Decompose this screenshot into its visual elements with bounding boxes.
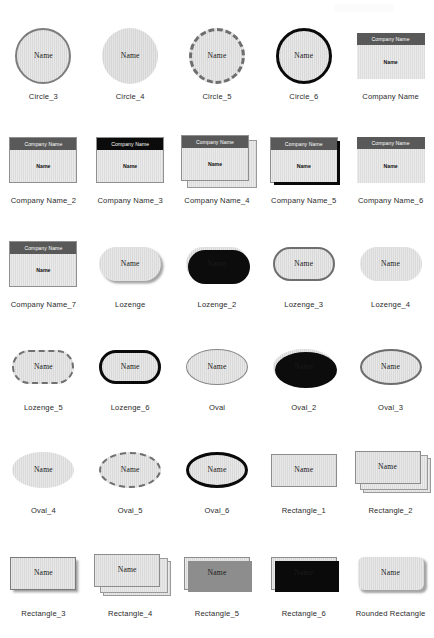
rectangle-grey-shadow-shape[interactable]: Name [184, 557, 250, 590]
shape-preview[interactable]: Name [174, 230, 261, 298]
shape-preview[interactable]: Name [347, 333, 434, 401]
shape-cell-lozenge-5[interactable]: Name Lozenge_5 [0, 333, 87, 412]
oval-shadow-shape[interactable]: Name [273, 349, 335, 385]
rectangle-black-shadow-shape[interactable]: Name [271, 557, 337, 590]
oval-plain-shape[interactable]: Name [12, 452, 74, 488]
shape-preview[interactable]: Company Name Name [0, 126, 87, 194]
shape-preview[interactable]: Name [0, 436, 87, 504]
shape-cell-lozenge[interactable]: Name Lozenge [87, 230, 174, 309]
shape-cell-oval-2[interactable]: Name Oval_2 [260, 333, 347, 412]
circle-shape[interactable]: Name [102, 28, 158, 84]
shape-preview[interactable]: Company Name Name [347, 126, 434, 194]
shape-preview[interactable]: Name [347, 539, 434, 607]
shape-name-text: Name [36, 163, 50, 169]
shape-cell-company-name-3[interactable]: Company Name Name Company Name_3 [87, 126, 174, 205]
shape-preview[interactable]: Name [260, 333, 347, 401]
rectangle-stacked-shape[interactable]: Name [94, 554, 160, 587]
shape-name-text: Name [381, 260, 400, 268]
company-card-stacked-shape[interactable]: Company Name Name [181, 135, 249, 181]
shape-preview[interactable]: Name [260, 230, 347, 298]
shape-cell-lozenge-3[interactable]: Name Lozenge_3 [260, 230, 347, 309]
shape-cell-circle-5[interactable]: Name Circle_5 [174, 22, 261, 101]
company-card-shadow-shape[interactable]: Company Name Name [270, 137, 338, 183]
shape-preview[interactable]: Name [174, 22, 261, 90]
shape-cell-circle-4[interactable]: Name Circle_4 [87, 22, 174, 101]
shape-label: Circle_4 [116, 92, 145, 101]
shape-label: Company Name_6 [358, 196, 423, 205]
shape-preview[interactable]: Name [260, 539, 347, 607]
shape-cell-circle-6[interactable]: Name Circle_6 [260, 22, 347, 101]
oval-bold-shape[interactable]: Name [186, 452, 248, 488]
rectangle-shadow-shape[interactable]: Name [10, 557, 76, 590]
company-card-shape[interactable]: Company Name Name [9, 241, 77, 287]
shape-preview[interactable]: Name [87, 333, 174, 401]
company-card-dark-header-shape[interactable]: Company Name Name [96, 137, 164, 183]
shape-preview[interactable]: Name [87, 539, 174, 607]
shape-cell-company-name-4[interactable]: Company Name Name Company Name_4 [174, 126, 261, 205]
shape-preview[interactable]: Company Name Name [0, 230, 87, 298]
shape-cell-lozenge-4[interactable]: Name Lozenge_4 [347, 230, 434, 309]
oval-dashed-shape[interactable]: Name [99, 452, 161, 488]
shape-cell-rectangle-6[interactable]: Name Rectangle_6 [260, 539, 347, 618]
shape-preview[interactable]: Company Name Name [174, 126, 261, 194]
oval-bordered-shape[interactable]: Name [360, 349, 422, 385]
shape-cell-circle-3[interactable]: Name Circle_3 [0, 22, 87, 101]
shape-preview[interactable]: Name [0, 539, 87, 607]
shape-preview[interactable]: Name [0, 333, 87, 401]
shape-cell-company-name[interactable]: Company Name Name Company Name [347, 22, 434, 101]
company-card-shape[interactable]: Company Name Name [357, 33, 425, 79]
card-header-text: Company Name [10, 242, 76, 254]
company-card-shape[interactable]: Company Name Name [357, 137, 425, 183]
shape-row: Name Oval_4 Name Oval_5 Name Oval_6 [0, 436, 434, 515]
shape-cell-rectangle-5[interactable]: Name Rectangle_5 [174, 539, 261, 618]
card-body: Name [10, 150, 76, 182]
shape-preview[interactable]: Name [260, 22, 347, 90]
lozenge-dashed-shape[interactable]: Name [12, 350, 74, 384]
lozenge-shadow-shape[interactable]: Name [186, 247, 248, 281]
rounded-rectangle-shape[interactable]: Name [358, 557, 424, 590]
shape-preview[interactable]: Name [87, 436, 174, 504]
circle-bold-shape[interactable]: Name [276, 28, 332, 84]
shape-preview[interactable]: Name [87, 230, 174, 298]
circle-dashed-shape[interactable]: Name [189, 28, 245, 84]
shape-preview[interactable]: Company Name Name [87, 126, 174, 194]
shape-cell-company-name-7[interactable]: Company Name Name Company Name_7 [0, 230, 87, 309]
rectangle-stacked-shape[interactable]: Name [355, 451, 421, 484]
shape-cell-rectangle-3[interactable]: Name Rectangle_3 [0, 539, 87, 618]
shape-cell-company-name-6[interactable]: Company Name Name Company Name_6 [347, 126, 434, 205]
circle-shape[interactable]: Name [15, 28, 71, 84]
oval-shape[interactable]: Name [186, 349, 248, 385]
shape-cell-rectangle-1[interactable]: Name Rectangle_1 [260, 436, 347, 515]
shape-cell-company-name-2[interactable]: Company Name Name Company Name_2 [0, 126, 87, 205]
rectangle-shape[interactable]: Name [271, 454, 337, 487]
shape-preview[interactable]: Name [174, 333, 261, 401]
shape-cell-oval[interactable]: Name Oval [174, 333, 261, 412]
shape-cell-rounded-rectangle[interactable]: Name Rounded Rectangle [347, 539, 434, 618]
shape-cell-oval-5[interactable]: Name Oval_5 [87, 436, 174, 515]
shape-label: Rectangle_1 [282, 506, 326, 515]
shape-preview[interactable]: Company Name Name [347, 22, 434, 90]
shape-preview[interactable]: Name [0, 22, 87, 90]
shape-preview[interactable]: Name [174, 436, 261, 504]
shape-cell-oval-4[interactable]: Name Oval_4 [0, 436, 87, 515]
shape-label: Lozenge_4 [371, 300, 410, 309]
shape-cell-oval-6[interactable]: Name Oval_6 [174, 436, 261, 515]
shape-name-text: Name [208, 260, 227, 268]
shape-preview[interactable]: Name [347, 436, 434, 504]
shape-cell-company-name-5[interactable]: Company Name Name Company Name_5 [260, 126, 347, 205]
shape-preview[interactable]: Name [260, 436, 347, 504]
lozenge-plain-shape[interactable]: Name [360, 247, 422, 281]
shape-cell-lozenge-6[interactable]: Name Lozenge_6 [87, 333, 174, 412]
shape-preview[interactable]: Name [174, 539, 261, 607]
shape-cell-rectangle-2[interactable]: Name Rectangle_2 [347, 436, 434, 515]
shape-preview[interactable]: Name [347, 230, 434, 298]
shape-cell-oval-3[interactable]: Name Oval_3 [347, 333, 434, 412]
shape-preview[interactable]: Name [87, 22, 174, 90]
shape-cell-rectangle-4[interactable]: Name Rectangle_4 [87, 539, 174, 618]
lozenge-shape[interactable]: Name [99, 247, 161, 281]
company-card-shape[interactable]: Company Name Name [9, 137, 77, 183]
shape-cell-lozenge-2[interactable]: Name Lozenge_2 [174, 230, 261, 309]
lozenge-bold-shape[interactable]: Name [99, 350, 161, 384]
shape-preview[interactable]: Company Name Name [260, 126, 347, 194]
lozenge-bordered-shape[interactable]: Name [273, 247, 335, 281]
